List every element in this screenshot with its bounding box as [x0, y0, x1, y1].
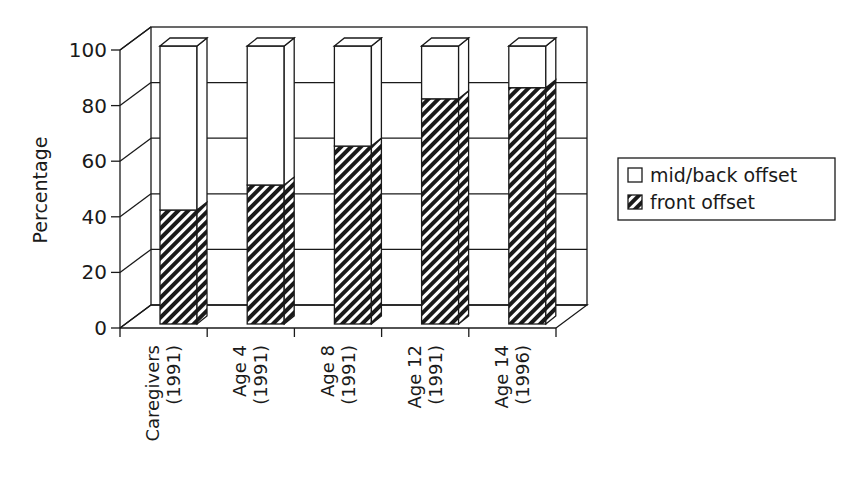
y-axis-title: Percentage	[29, 137, 51, 244]
x-category-label: Age 12(1991)	[404, 345, 446, 408]
bar	[422, 38, 469, 324]
bar	[247, 38, 294, 324]
bars	[160, 38, 556, 324]
x-axis: Caregivers(1991)Age 4(1991)Age 8(1991)Ag…	[120, 328, 556, 442]
svg-text:(1991): (1991)	[425, 345, 446, 405]
svg-text:(1991): (1991)	[250, 345, 271, 405]
bar	[334, 38, 381, 324]
y-tick-label: 100	[69, 38, 107, 62]
stacked-3d-bar-chart: 020406080100 Caregivers(1991)Age 4(1991)…	[0, 0, 860, 481]
legend-label-mid-back: mid/back offset	[650, 164, 797, 186]
y-tick-label: 40	[82, 205, 107, 229]
svg-text:Age 12: Age 12	[404, 345, 425, 408]
y-tick-label: 0	[94, 316, 107, 340]
x-category-label: Age 8(1991)	[317, 345, 359, 405]
bar-segment-mid-back-offset	[422, 46, 459, 99]
y-tick-label: 80	[82, 94, 107, 118]
bar-segment-mid-back-offset	[334, 46, 371, 146]
svg-text:Age 14: Age 14	[491, 345, 512, 408]
legend-swatch-mid-back-icon	[628, 168, 642, 182]
y-tick-label: 60	[82, 149, 107, 173]
bar-segment-mid-back-offset	[509, 46, 546, 88]
bar	[509, 38, 556, 324]
x-category-label: Age 4(1991)	[229, 345, 271, 405]
legend-label-front: front offset	[650, 191, 755, 213]
svg-text:Caregivers: Caregivers	[142, 345, 163, 442]
svg-text:Age 4: Age 4	[229, 345, 250, 397]
y-axis: 020406080100	[69, 38, 120, 340]
svg-text:(1991): (1991)	[163, 345, 184, 405]
bar	[160, 38, 207, 324]
svg-text:(1996): (1996)	[512, 345, 533, 405]
bar-segment-mid-back-offset	[160, 46, 197, 210]
bar-segment-front-offset	[334, 146, 371, 324]
legend: mid/back offset front offset	[618, 158, 835, 220]
bar-segment-front-offset	[422, 99, 459, 324]
svg-text:Age 8: Age 8	[317, 345, 338, 397]
svg-text:(1991): (1991)	[338, 345, 359, 405]
x-category-label: Age 14(1996)	[491, 345, 533, 408]
y-tick-label: 20	[82, 260, 107, 284]
bar-segment-front-offset	[247, 185, 284, 324]
x-category-label: Caregivers(1991)	[142, 345, 184, 442]
bar-segment-front-offset	[509, 88, 546, 324]
legend-swatch-front-icon	[628, 195, 642, 209]
bar-segment-mid-back-offset	[247, 46, 284, 185]
bar-segment-front-offset	[160, 210, 197, 324]
